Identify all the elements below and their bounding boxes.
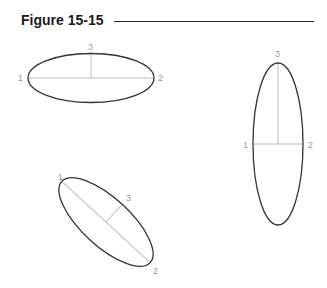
point-label-2: 2 — [158, 73, 163, 83]
ellipse-horizontal: 1 2 3 — [18, 42, 163, 103]
point-label-3: 3 — [275, 49, 280, 59]
point-label-1: 1 — [58, 172, 63, 182]
point-label-2: 2 — [308, 140, 313, 150]
point-label-1: 1 — [243, 140, 248, 150]
ellipse-diagonal: 1 2 3 — [46, 164, 167, 281]
point-label-3: 3 — [126, 193, 131, 203]
point-label-3: 3 — [88, 42, 93, 52]
point-label-1: 1 — [18, 73, 23, 83]
ellipse-vertical: 1 2 3 — [243, 49, 313, 225]
ellipse-diagram: 1 2 3 1 2 3 1 2 3 — [0, 0, 327, 288]
point-label-2: 2 — [153, 266, 158, 276]
minor-semi-axis — [106, 204, 122, 222]
